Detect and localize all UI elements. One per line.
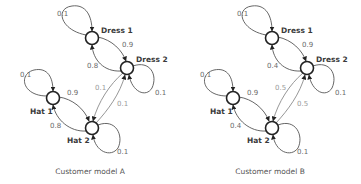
edge-label: 0.1 [95, 84, 106, 92]
node-hat1 [227, 92, 240, 105]
node-label-hat1: Hat 1 [210, 107, 233, 116]
edge-label: 0.1 [335, 89, 346, 97]
node-label-hat2: Hat 2 [67, 136, 90, 145]
edge-label: 0.4 [267, 62, 279, 70]
edge-label: 0.1 [200, 71, 211, 79]
edge-label: 0.1 [57, 10, 68, 18]
markov-diagram-a: Dress 1 Dress 2 Hat 1 Hat 2 0.1 0.9 0.8 … [20, 6, 168, 156]
edge-label: 0.4 [230, 122, 242, 130]
node-dress2 [121, 62, 134, 75]
node-hat1 [47, 92, 60, 105]
edge-label: 0.8 [87, 62, 98, 70]
edge-dress2-to-hat2 [273, 73, 303, 121]
edge-label: 0.5 [297, 100, 308, 108]
node-label-hat1: Hat 1 [30, 107, 53, 116]
caption-model-a: Customer model A [30, 167, 150, 176]
node-hat2 [86, 122, 99, 135]
node-dress2 [301, 62, 314, 75]
edge-label: 0.9 [67, 89, 78, 97]
node-label-dress1: Dress 1 [101, 26, 133, 35]
node-label-dress1: Dress 1 [281, 26, 313, 35]
edge-label: 0.9 [302, 41, 313, 49]
edge-hat1-to-hat2 [239, 97, 269, 121]
edge-hat2-to-dress2 [96, 75, 125, 123]
node-dress1 [266, 32, 279, 45]
edge-hat1-to-hat2 [59, 97, 89, 121]
node-dress1 [86, 32, 99, 45]
edge-label: 0.8 [50, 122, 61, 130]
node-label-dress2: Dress 2 [316, 55, 348, 64]
markov-diagram-b: Dress 1 Dress 2 Hat 1 Hat 2 0.1 0.9 0.4 … [200, 6, 348, 156]
edge-label: 0.1 [237, 10, 248, 18]
edge-label: 0.9 [122, 41, 133, 49]
node-label-hat2: Hat 2 [247, 136, 270, 145]
edge-label: 0.1 [155, 89, 166, 97]
edge-label: 0.5 [275, 84, 286, 92]
node-hat2 [266, 122, 279, 135]
caption-model-b: Customer model B [210, 167, 330, 176]
node-label-dress2: Dress 2 [136, 55, 168, 64]
edge-label: 0.9 [247, 89, 258, 97]
edge-label: 0.1 [20, 71, 31, 79]
edge-label: 0.1 [117, 148, 128, 156]
edge-hat2-to-dress2 [276, 75, 305, 123]
edge-label: 0.1 [117, 100, 128, 108]
edge-dress2-to-hat2 [93, 73, 123, 121]
edge-label: 0.1 [297, 148, 308, 156]
